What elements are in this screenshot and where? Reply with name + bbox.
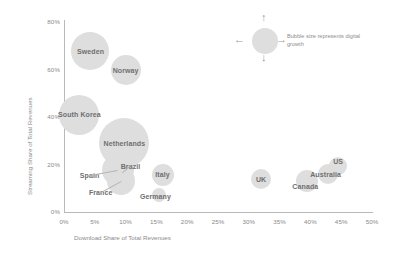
bubble-label-south-korea: South Korea [58, 110, 101, 117]
bubble-label-norway: Norway [113, 66, 139, 73]
bubble-chart: 0%20%40%60%80% 0%5%10%15%20%25%30%35%40%… [0, 0, 405, 255]
y-axis-title: Streaming Share of Total Revenues [26, 97, 33, 195]
x-axis-title: Download Share of Total Revenues [74, 234, 171, 241]
x-tick-label: 45% [326, 218, 356, 225]
y-tick-label: 60% [30, 66, 60, 73]
bubble-label-us: US [333, 157, 343, 164]
bubble-label-sweden: Sweden [77, 47, 104, 54]
x-tick-label: 0% [49, 218, 79, 225]
bubble-label-netherlands: Netherlands [104, 140, 146, 147]
bubble-size-legend: ↑ ↓ ← → Bubble size represents digital g… [230, 8, 400, 70]
bubble-label-australia: Australia [310, 171, 341, 178]
x-tick-label: 30% [234, 218, 264, 225]
arrow-up-icon: ↑ [261, 12, 267, 23]
x-tick-label: 20% [172, 218, 202, 225]
x-tick-label: 25% [203, 218, 233, 225]
bubble-label-germany: Germany [140, 193, 171, 200]
legend-caption: Bubble size represents digital growth [287, 32, 367, 49]
y-tick-label: 20% [30, 161, 60, 168]
y-tick-label: 0% [30, 208, 60, 215]
legend-bubble-icon [252, 28, 278, 54]
arrow-left-icon: ← [234, 34, 245, 45]
y-tick-label: 40% [30, 113, 60, 120]
bubble-label-italy: Italy [155, 171, 170, 178]
x-tick-label: 10% [111, 218, 141, 225]
bubble-label-canada: Canada [292, 183, 318, 190]
x-tick-label: 5% [80, 218, 110, 225]
bubble-label-uk: UK [256, 175, 266, 182]
y-tick-label: 80% [30, 18, 60, 25]
x-tick-label: 15% [141, 218, 171, 225]
x-tick-label: 35% [265, 218, 295, 225]
x-tick-label: 50% [357, 218, 387, 225]
x-tick-label: 40% [295, 218, 325, 225]
x-axis-line [64, 212, 373, 213]
